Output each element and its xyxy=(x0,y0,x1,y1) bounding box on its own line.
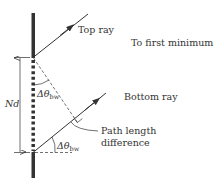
single-slit-diffraction-diagram: Nd Top ray To first minimum Bottom ray Δ… xyxy=(0,0,218,189)
upper-angle-arc xyxy=(34,80,50,85)
barrier-bottom-solid xyxy=(32,152,36,178)
top-ray-label: Top ray xyxy=(78,24,115,35)
upper-angle-label: Δθbw xyxy=(36,88,60,101)
path-length-leader xyxy=(71,122,98,131)
nd-dimension: Nd xyxy=(4,58,30,153)
top-ray-line xyxy=(33,14,88,58)
top-ray-arrow-icon xyxy=(60,27,71,36)
path-length-label-line1: Path length xyxy=(101,125,156,136)
bottom-ray-arrow-icon xyxy=(85,100,97,110)
top-ray: Top ray xyxy=(33,14,115,58)
to-first-minimum-label: To first minimum xyxy=(131,37,213,48)
bottom-ray-label: Bottom ray xyxy=(124,91,178,102)
lower-angle-label: Δθbw xyxy=(56,140,80,153)
slit-barrier xyxy=(32,13,36,178)
lower-angle-arc xyxy=(52,137,55,153)
barrier-top-solid xyxy=(32,13,36,58)
path-length-label-line2: difference xyxy=(101,137,150,148)
nd-label: Nd xyxy=(4,98,19,109)
